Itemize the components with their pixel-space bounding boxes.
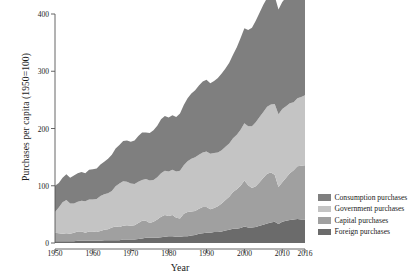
x-tick-label: 1950 bbox=[48, 249, 63, 258]
legend-swatch bbox=[318, 194, 331, 201]
legend-swatch bbox=[318, 229, 331, 236]
legend-label: Consumption purchases bbox=[335, 192, 408, 203]
legend-item: Capital purchases bbox=[318, 215, 407, 226]
legend-item: Government purchases bbox=[318, 203, 407, 214]
y-tick-label: 200 bbox=[27, 124, 49, 133]
stacked-area-chart-figure: Purchases per capita (1950=100) 01002003… bbox=[0, 0, 414, 280]
y-tick-label: 100 bbox=[27, 181, 49, 190]
legend-item: Consumption purchases bbox=[318, 192, 407, 203]
x-tick-label: 2016 bbox=[298, 249, 313, 258]
legend-label: Capital purchases bbox=[335, 215, 389, 226]
x-tick-label: 1990 bbox=[199, 249, 214, 258]
x-tick-label: 1980 bbox=[161, 249, 176, 258]
y-tick-label: 400 bbox=[27, 10, 49, 19]
x-tick-label: 2010 bbox=[275, 249, 290, 258]
x-tick-label: 1970 bbox=[123, 249, 138, 258]
x-axis-label: Year bbox=[55, 262, 305, 273]
chart-legend: Consumption purchasesGovernment purchase… bbox=[318, 192, 407, 238]
legend-label: Government purchases bbox=[335, 203, 405, 214]
legend-swatch bbox=[318, 206, 331, 213]
legend-label: Foreign purchases bbox=[335, 226, 390, 237]
legend-swatch bbox=[318, 217, 331, 224]
chart-canvas bbox=[0, 0, 414, 280]
x-tick-label: 1960 bbox=[85, 249, 100, 258]
legend-item: Foreign purchases bbox=[318, 226, 407, 237]
y-tick-label: 300 bbox=[27, 67, 49, 76]
x-tick-label: 2000 bbox=[237, 249, 252, 258]
y-tick-label: 0 bbox=[27, 239, 49, 248]
